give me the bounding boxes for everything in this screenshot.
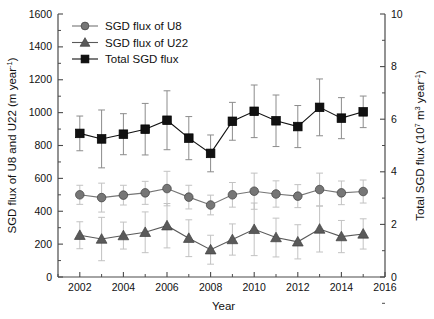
data-point-0-10 (294, 192, 303, 201)
y-axis-left-tick-label: 400 (34, 205, 52, 217)
y-axis-left-tick-label: 1400 (29, 40, 53, 52)
chart-canvas: 0200400600800100012001400160002468102002… (0, 0, 434, 319)
legend-label-0: SGD flux of U8 (105, 20, 182, 32)
y-axis-left-tick-label: 1000 (29, 106, 53, 118)
x-axis-tick-label: 2008 (199, 281, 223, 293)
data-point-2-13 (359, 108, 368, 117)
y-axis-right-tick-label: 2 (391, 218, 397, 230)
y-axis-right-tick-label: 10 (391, 8, 403, 20)
y-axis-left-tick-label: 1600 (29, 8, 53, 20)
data-point-2-5 (185, 134, 194, 143)
data-point-1-9 (271, 232, 282, 242)
y-axis-right-tick-label: 8 (391, 60, 397, 72)
y-axis-left-tick-label: 1200 (29, 73, 53, 85)
data-point-2-6 (206, 149, 215, 158)
x-axis-tick-label: 2014 (330, 281, 354, 293)
data-point-2-2 (119, 130, 128, 139)
data-point-0-1 (97, 193, 106, 202)
y-axis-left-tick-label: 0 (46, 271, 52, 283)
data-point-0-4 (163, 184, 172, 193)
data-point-0-6 (206, 201, 215, 210)
data-point-1-11 (314, 224, 325, 234)
x-axis-tick-label: 2006 (155, 281, 179, 293)
data-point-0-3 (141, 189, 150, 198)
data-point-0-7 (228, 191, 237, 200)
x-axis-tick-label: 2004 (112, 281, 136, 293)
chart-figure: 0200400600800100012001400160002468102002… (0, 0, 434, 319)
y-axis-right-title: Total SGD flux (107 m3 year-1) (413, 70, 427, 221)
data-point-0-11 (315, 185, 324, 194)
data-point-1-0 (74, 230, 85, 240)
data-point-2-3 (141, 125, 150, 134)
data-point-2-0 (76, 129, 85, 138)
data-point-2-11 (315, 103, 324, 112)
x-axis-tick-label: 2010 (243, 281, 267, 293)
data-point-1-7 (227, 234, 238, 244)
data-point-0-8 (250, 187, 259, 196)
legend-label-2: Total SGD flux (105, 53, 179, 65)
data-point-2-1 (97, 135, 106, 144)
data-point-0-5 (185, 193, 194, 202)
data-point-1-5 (183, 233, 194, 243)
y-axis-right-tick-label: 6 (391, 113, 397, 125)
x-axis-tick-label: 2002 (68, 281, 92, 293)
x-axis-tick-label: 2012 (286, 281, 310, 293)
y-axis-left-title: SGD flux of U8 and U22 (m year-1) (5, 57, 19, 233)
legend-label-1: SGD flux of U22 (105, 37, 188, 49)
data-point-1-8 (249, 224, 260, 234)
legend-marker-2 (81, 55, 89, 63)
data-point-0-9 (272, 190, 281, 199)
data-point-2-9 (272, 116, 281, 125)
data-point-0-0 (76, 191, 85, 200)
data-point-0-2 (119, 191, 128, 200)
data-point-0-13 (359, 187, 368, 196)
data-point-2-7 (228, 117, 237, 126)
y-axis-left-tick-label: 200 (34, 238, 52, 250)
data-point-2-4 (163, 116, 172, 125)
data-point-1-13 (358, 229, 369, 239)
x-axis-title: Year (212, 300, 235, 312)
data-point-2-8 (250, 107, 259, 116)
legend-marker-0 (81, 22, 89, 30)
data-point-2-10 (294, 122, 303, 131)
data-point-0-12 (337, 189, 346, 198)
data-point-1-6 (205, 244, 216, 254)
y-axis-left-tick-label: 600 (34, 172, 52, 184)
data-point-1-4 (162, 220, 173, 230)
y-axis-left-tick-label: 800 (34, 139, 52, 151)
y-axis-right-tick-label: 4 (391, 165, 397, 177)
x-axis-tick-label: 2016 (373, 281, 397, 293)
data-point-2-12 (337, 114, 346, 123)
